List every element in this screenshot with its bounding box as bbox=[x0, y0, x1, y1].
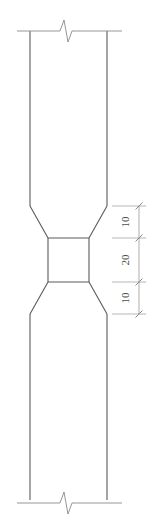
vertical-dimension-chain: 10 20 10 bbox=[112, 203, 146, 318]
column-outline-group bbox=[30, 31, 107, 500]
bottom-break-line bbox=[17, 492, 122, 514]
top-break-line-path bbox=[17, 20, 122, 42]
bottom-break-line-path bbox=[17, 492, 122, 514]
dimension-label-upper: 10 bbox=[119, 216, 131, 228]
dimension-label-middle: 20 bbox=[119, 254, 131, 266]
column-detail-drawing: 10 20 10 bbox=[0, 0, 162, 526]
top-break-line bbox=[17, 20, 122, 42]
upper-right-chamfer bbox=[89, 206, 107, 238]
upper-left-chamfer bbox=[30, 206, 48, 238]
dimension-label-lower: 10 bbox=[119, 292, 131, 304]
lower-left-chamfer bbox=[30, 282, 48, 314]
technical-drawing-canvas: 10 20 10 bbox=[0, 0, 162, 526]
lower-right-chamfer bbox=[89, 282, 107, 314]
